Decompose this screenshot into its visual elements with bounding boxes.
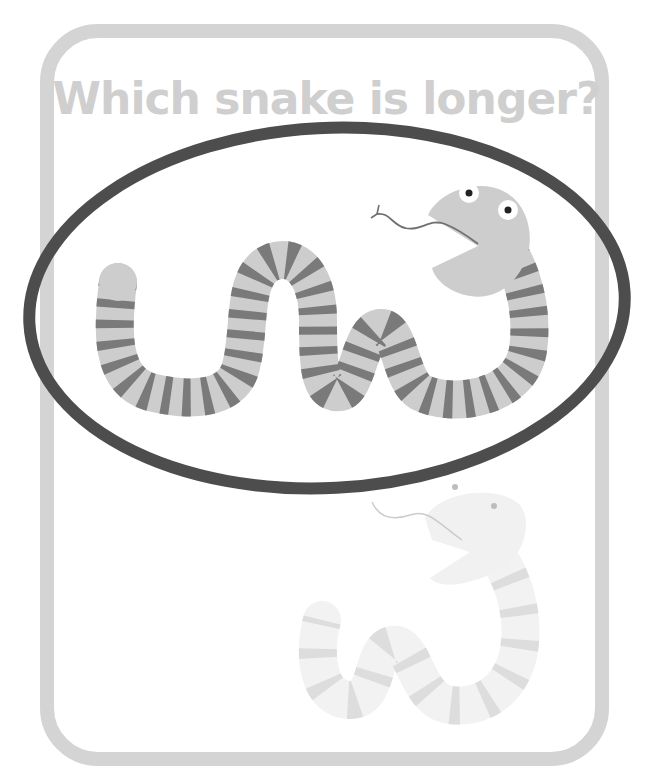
bottom-snake-eye-icon (491, 503, 497, 509)
bottom-snake-eye-icon (452, 484, 458, 490)
worksheet-illustration (0, 0, 653, 777)
bottom-snake[interactable] (318, 484, 526, 706)
top-snake[interactable] (99, 183, 530, 399)
